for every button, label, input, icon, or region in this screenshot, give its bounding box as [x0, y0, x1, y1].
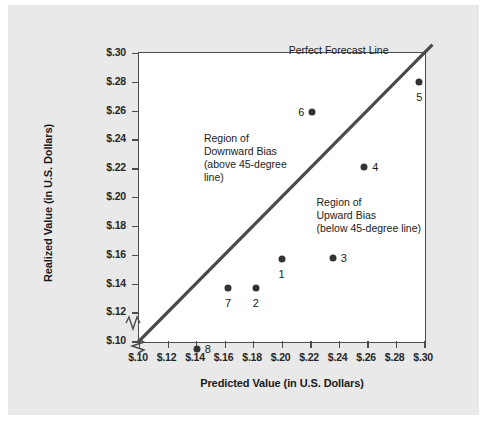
data-point-marker: [252, 284, 259, 291]
x-tick-label: $.24: [328, 351, 348, 363]
y-tick: [132, 82, 139, 83]
x-tick-label: $.14: [185, 351, 205, 363]
x-tick: [396, 341, 397, 348]
data-point-marker: [416, 78, 423, 85]
downward-bias-annotation: Region of Downward Bias (above 45-degree…: [204, 132, 287, 184]
y-tick-label: $.28: [106, 75, 126, 87]
y-tick: [132, 284, 139, 285]
x-tick: [282, 341, 283, 348]
x-tick: [225, 341, 226, 348]
y-tick-label: $.30: [106, 46, 126, 58]
y-tick: [132, 168, 139, 169]
y-tick: [132, 53, 139, 54]
x-tick-label: $.26: [356, 351, 376, 363]
perfect-forecast-line-label: Perfect Forecast Line: [289, 44, 389, 56]
x-tick-label: $.16: [214, 351, 234, 363]
y-tick-label: $.22: [106, 161, 126, 173]
data-point-label: 4: [372, 161, 378, 173]
x-tick: [339, 341, 340, 348]
x-tick-label: $.20: [271, 351, 291, 363]
plot-area: 12345678 Region of Downward Bias (above …: [138, 52, 426, 343]
y-tick: [132, 111, 139, 112]
y-tick-label: $.20: [106, 190, 126, 202]
data-point-label: 8: [205, 343, 211, 355]
y-tick-label: $.24: [106, 132, 126, 144]
y-tick-label: $.26: [106, 104, 126, 116]
x-tick-label: $.30: [413, 351, 433, 363]
x-tick-label: $.22: [299, 351, 319, 363]
x-tick-label: $.28: [385, 351, 405, 363]
y-tick: [132, 197, 139, 198]
x-tick-label: $.10: [128, 351, 148, 363]
data-point-label: 5: [416, 91, 422, 103]
chart-figure: 12345678 Region of Downward Bias (above …: [0, 0, 487, 431]
x-tick: [139, 341, 140, 348]
data-point-label: 7: [225, 297, 231, 309]
data-point-label: 3: [341, 252, 347, 264]
figure-panel: 12345678 Region of Downward Bias (above …: [8, 5, 479, 415]
data-point-label: 1: [279, 268, 285, 280]
x-tick-label: $.12: [157, 351, 177, 363]
plot-inner: 12345678 Region of Downward Bias (above …: [139, 53, 425, 342]
perfect-forecast-line: [139, 46, 431, 341]
data-point-label: 6: [298, 106, 304, 118]
x-tick: [424, 341, 425, 348]
y-tick-label: $.16: [106, 248, 126, 260]
upward-bias-annotation: Region of Upward Bias (below 45-degree l…: [317, 196, 421, 235]
y-tick-label: $.18: [106, 219, 126, 231]
data-point-marker: [361, 163, 368, 170]
y-tick-label: $.10: [106, 334, 126, 346]
x-axis-title: Predicted Value (in U.S. Dollars): [138, 377, 426, 389]
y-tick-label: $.14: [106, 277, 126, 289]
x-tick: [168, 341, 169, 348]
y-axis-title: Realized Value (in U.S. Dollars): [42, 103, 54, 303]
data-point-label: 2: [253, 297, 259, 309]
y-tick: [132, 139, 139, 140]
data-point-marker: [309, 109, 316, 116]
y-tick: [132, 255, 139, 256]
x-tick-label: $.18: [242, 351, 262, 363]
data-point-marker: [225, 284, 232, 291]
y-tick: [132, 226, 139, 227]
x-tick: [367, 341, 368, 348]
y-tick: [132, 341, 139, 342]
y-tick-label: $.12: [106, 305, 126, 317]
x-tick: [253, 341, 254, 348]
data-point-marker: [329, 254, 336, 261]
x-tick: [310, 341, 311, 348]
data-point-marker: [278, 256, 285, 263]
y-tick: [132, 312, 139, 313]
